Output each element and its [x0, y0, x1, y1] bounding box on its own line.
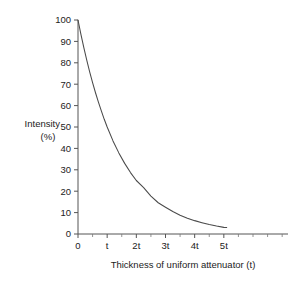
y-axis-title-line2: (%) — [41, 131, 56, 142]
y-tick-label: 100 — [55, 14, 71, 25]
attenuation-curve — [78, 20, 227, 228]
x-tick-label: 5t — [220, 240, 228, 251]
y-tick-label: 60 — [60, 100, 71, 111]
y-tick-label: 30 — [60, 164, 71, 175]
x-tick-labels: 0t2t3t4t5t — [75, 240, 228, 251]
y-tick-label: 40 — [60, 143, 71, 154]
attenuation-chart: 0102030405060708090100 0t2t3t4t5t Intens… — [0, 0, 301, 283]
chart-svg: 0102030405060708090100 0t2t3t4t5t Intens… — [0, 0, 301, 283]
y-tick-label: 0 — [66, 228, 71, 239]
y-tick-label: 50 — [60, 121, 71, 132]
y-tick-marks — [74, 20, 78, 234]
x-tick-label: 3t — [162, 240, 170, 251]
x-tick-label: t — [106, 240, 109, 251]
x-tick-label: 4t — [191, 240, 199, 251]
y-tick-label: 90 — [60, 36, 71, 47]
y-tick-label: 70 — [60, 79, 71, 90]
x-tick-label: 2t — [132, 240, 140, 251]
x-axis-title: Thickness of uniform attenuator (t) — [111, 259, 256, 270]
x-tick-label: 0 — [75, 240, 80, 251]
y-tick-label: 10 — [60, 207, 71, 218]
y-tick-label: 20 — [60, 186, 71, 197]
y-tick-label: 80 — [60, 57, 71, 68]
x-axis-group: 0t2t3t4t5t — [75, 234, 288, 251]
y-axis-title-line1: Intensity — [25, 118, 61, 129]
